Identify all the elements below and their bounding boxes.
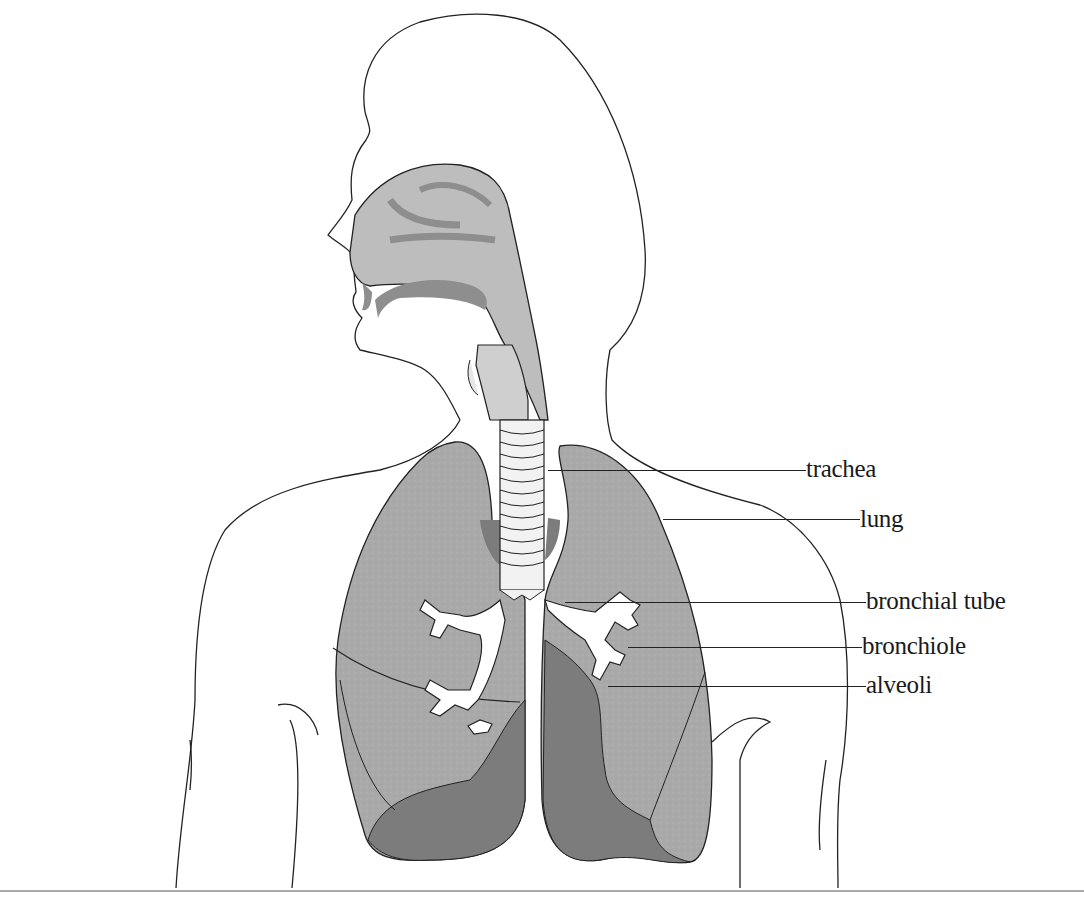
label-bronchial-tube: bronchial tube [866, 588, 1006, 613]
bottom-divider [0, 890, 1084, 892]
label-trachea: trachea [806, 456, 876, 481]
label-bronchiole: bronchiole [862, 633, 966, 658]
respiratory-diagram: trachealungbronchial tubebronchiolealveo… [0, 0, 1084, 920]
label-lung: lung [860, 506, 903, 531]
leader-line-alveoli [608, 686, 866, 687]
leader-line-bronchial-tube [565, 602, 866, 603]
label-alveoli: alveoli [866, 672, 932, 697]
leader-line-trachea [548, 470, 806, 471]
anatomy-illustration [0, 0, 1084, 920]
leader-line-lung [663, 519, 860, 520]
leader-line-bronchiole [628, 647, 862, 648]
trachea [500, 420, 544, 600]
left-lung [541, 445, 712, 862]
